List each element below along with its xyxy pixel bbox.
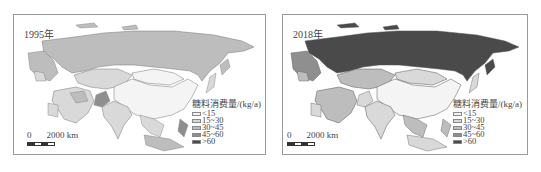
legend-item: >60 <box>453 138 522 145</box>
year-label: 2018年 <box>293 26 323 41</box>
region-southeast-asia <box>403 115 427 137</box>
legend: 糖料消费量/(kg/a) <15 15~30 30~45 45~60 >60 <box>192 101 261 145</box>
year-label: 1995年 <box>24 26 54 41</box>
scale-bar-graphic <box>287 142 315 146</box>
region-india <box>102 101 132 139</box>
map-panel-1995: 1995年 糖料消费量/(kg/a) <15 15~30 30~45 45~60… <box>13 14 266 155</box>
scale-bar: 02000 km <box>27 130 78 146</box>
map-panel-2018: 2018年 糖料消费量/(kg/a) <15 15~30 30~45 45~60… <box>282 14 528 155</box>
scale-bar: 02000 km <box>287 130 338 146</box>
legend-title: 糖料消费量/(kg/a) <box>192 101 261 108</box>
legend-title: 糖料消费量/(kg/a) <box>453 101 522 108</box>
legend: 糖料消费量/(kg/a) <15 15~30 30~45 45~60 >60 <box>453 101 522 145</box>
region-india <box>365 101 395 139</box>
region-middle-east <box>315 87 357 123</box>
scale-bar-graphic <box>27 142 55 146</box>
region-southeast-asia <box>140 115 164 137</box>
legend-item: >60 <box>192 138 261 145</box>
